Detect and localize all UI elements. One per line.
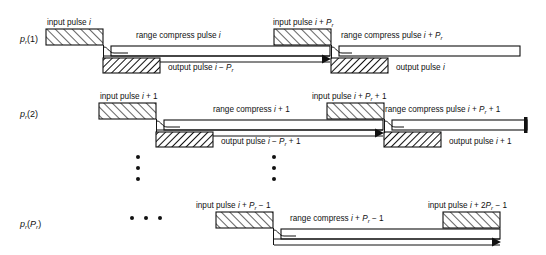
- row1-out-left-label: output pulse i − Pr: [168, 63, 235, 73]
- row2-input-left-label: input pulse i + 1: [100, 92, 158, 101]
- row1-input-right-label: input pulse i + Pr: [273, 18, 335, 28]
- row1-range-compress-left-rect: [111, 46, 330, 56]
- row3-range-compress-left-rect: [281, 229, 500, 239]
- row3-input-right-label: input pulse i + 2Pr − 1: [428, 201, 507, 211]
- row2-connector-left: [157, 121, 180, 127]
- row2-out-right-label: output pulse i + 1: [449, 137, 512, 146]
- row1-input-pulse-left-box: [46, 29, 103, 45]
- vertical-ellipsis-col-2: [272, 155, 276, 181]
- row3-connector-left: [274, 230, 296, 236]
- row2-rc-right-label: range compress pulse i + Pr + 1: [385, 105, 501, 115]
- row1-output-pulse-right-box: [331, 58, 388, 73]
- row1-output-pulse-left-box: [103, 58, 160, 73]
- row2-input-right-label: input pulse i + Pr + 1: [312, 92, 387, 102]
- row1-connector-right: [332, 47, 352, 53]
- row2-input-pulse-left-box: [99, 103, 156, 119]
- horizontal-ellipsis: [130, 216, 162, 220]
- row1-rc-left-label: range compress pulse i: [136, 31, 221, 40]
- row2-connector-right: [385, 121, 404, 127]
- row1-input-pulse-right-box: [274, 29, 331, 45]
- row-label-3: pr(Pr): [19, 219, 41, 230]
- vertical-ellipsis-col-1: [136, 155, 140, 181]
- row1-connector-left: [104, 47, 128, 53]
- row1-input-left-label: input pulse i: [47, 18, 91, 27]
- diagram-canvas: pr(1) input pulse i input pulse i + Pr r…: [0, 0, 546, 255]
- row2-rc-right-endcap: [524, 117, 528, 133]
- row3-input-pulse-left-box: [216, 212, 273, 228]
- row3-input-pulse-right-box: [443, 212, 500, 228]
- row1-rc-right-label: range compress pulse i + Pr: [341, 31, 443, 41]
- pulse-timing-diagram: pr(1) input pulse i input pulse i + Pr r…: [0, 0, 546, 255]
- row2-out-left-label: output pulse i − Pr + 1: [221, 137, 301, 147]
- row-label-2: pr(2): [19, 109, 38, 120]
- row1-out-right-label: output pulse i: [396, 63, 445, 72]
- row1-range-compress-right-rect: [339, 46, 520, 56]
- row3-input-left-label: input pulse i + Pr − 1: [196, 201, 271, 211]
- row2-range-compress-left-rect: [164, 120, 383, 130]
- row2-rc-left-label: range compress i + 1: [213, 105, 290, 114]
- row2-output-pulse-right-box: [384, 132, 441, 147]
- row-label-1: pr(1): [19, 34, 38, 45]
- row2-output-pulse-left-box: [156, 132, 213, 147]
- row2-input-pulse-right-box: [327, 103, 384, 119]
- row3-rc-left-label: range compress i + Pr − 1: [290, 214, 384, 224]
- row2-range-compress-right-rect: [392, 120, 527, 130]
